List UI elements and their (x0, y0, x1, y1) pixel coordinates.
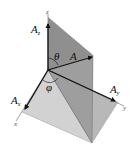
vector-components-diagram: z y x Az Ay Ax A θ φ (0, 0, 135, 150)
axis-y-label: y (122, 104, 127, 112)
Ay-label: Ay (109, 83, 120, 96)
theta-label: θ (54, 50, 60, 62)
Ax-label: Ax (10, 94, 21, 107)
phi-label: φ (46, 81, 52, 93)
Az-label: Az (30, 23, 41, 36)
diagram-svg: z y x Az Ay Ax A θ φ (0, 0, 135, 150)
axis-z-label: z (45, 8, 49, 16)
axis-x-label: x (13, 120, 18, 128)
A-label: A (69, 50, 77, 62)
